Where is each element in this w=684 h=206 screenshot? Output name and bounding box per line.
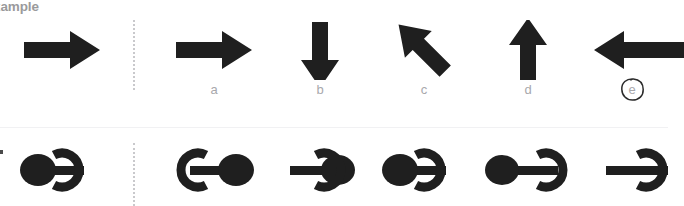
ellipse-bar-ring-icon: [372, 142, 476, 202]
arrow-up-icon: [476, 20, 580, 80]
clipped-edge-mark: [0, 150, 3, 154]
option-cell-e[interactable]: e: [580, 20, 684, 98]
answer-circle-annotation: [620, 77, 645, 102]
ellipse-bar-ring-icon: [10, 142, 114, 202]
option-cell-b[interactable]: b: [268, 20, 372, 98]
option-glyph-c: [372, 20, 476, 80]
reference-arrow-glyph: [10, 20, 114, 80]
option-glyph-a: [162, 20, 266, 80]
option-symbol-glyph-e: [580, 142, 684, 202]
option-cell-c[interactable]: c: [372, 20, 476, 98]
option-label-c: c: [414, 83, 434, 97]
option-symbol-cell-e[interactable]: [580, 142, 684, 202]
option-symbol-glyph-a: [162, 142, 266, 202]
option-label-a: a: [204, 83, 224, 97]
arrow-right-icon: [162, 20, 266, 80]
option-cell-d[interactable]: d: [476, 20, 580, 98]
arrow-down-left-icon: [372, 20, 476, 80]
ellipse-bar-ring-icon: [476, 142, 580, 202]
ellipse-bar-ring-icon: [268, 142, 372, 202]
option-symbol-cell-b[interactable]: [268, 142, 372, 202]
option-symbol-cell-c[interactable]: [372, 142, 476, 202]
option-cell-a[interactable]: a: [162, 20, 266, 98]
option-glyph-d: [476, 20, 580, 80]
option-symbol-cell-d[interactable]: [476, 142, 580, 202]
reference-symbol-glyph: [10, 142, 114, 202]
arrow-left-icon: [580, 20, 684, 80]
option-glyph-b: [268, 20, 372, 80]
option-symbol-glyph-b: [268, 142, 372, 202]
ring-bar-icon: [580, 142, 684, 202]
option-symbol-glyph-c: [372, 142, 476, 202]
option-symbol-glyph-d: [476, 142, 580, 202]
option-label-d: d: [518, 83, 538, 97]
reference-symbol-cell: [10, 142, 114, 202]
reference-arrow-cell: [10, 20, 114, 80]
option-label-e: e: [622, 83, 642, 97]
arrow-right-icon: [10, 20, 114, 80]
symbols-row: [0, 136, 668, 206]
ellipse-bar-ring-icon: [162, 142, 266, 202]
option-glyph-e: [580, 20, 684, 80]
arrow-down-icon: [268, 20, 372, 80]
page-title: xample: [0, 0, 39, 15]
option-label-b: b: [310, 83, 330, 97]
row-separator: [0, 127, 668, 128]
arrows-row: a b c: [0, 18, 668, 112]
option-symbol-cell-a[interactable]: [162, 142, 266, 202]
